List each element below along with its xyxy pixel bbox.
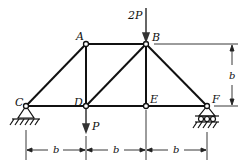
label-B: B [151, 31, 160, 44]
label-F: F [211, 93, 220, 106]
label-E: E [149, 93, 158, 106]
label-D: D [73, 96, 83, 109]
label-A: A [75, 30, 84, 43]
truss-members [26, 44, 207, 106]
dim-label-vertical: b [229, 70, 235, 81]
joint-C [24, 104, 29, 109]
label-C: C [15, 96, 24, 109]
arrow-down-icon [83, 124, 89, 132]
load-label-P: P [91, 120, 100, 133]
joint-F [205, 104, 210, 109]
vertical-dimension [154, 44, 238, 106]
load-label-2P: 2P [127, 9, 143, 22]
joint-D [84, 104, 89, 109]
joint-E [144, 104, 149, 109]
truss-diagram: A B C D E F 2P P b b b b [0, 0, 242, 164]
dim-label-1: b [53, 144, 59, 155]
member-DB [86, 44, 146, 106]
arrow-down-icon [143, 33, 149, 41]
dim-label-3: b [173, 144, 179, 155]
roller-support-F [193, 106, 219, 128]
dim-label-2: b [113, 144, 119, 155]
joint-A [84, 42, 89, 47]
loads [83, 8, 149, 132]
